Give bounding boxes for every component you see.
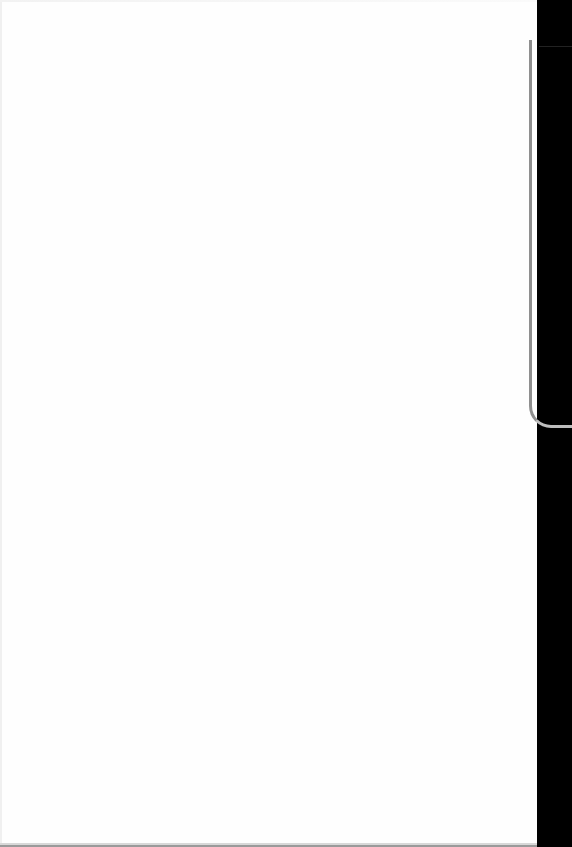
paper-top-edge	[0, 0, 537, 2]
blank-paper-sheet	[0, 0, 537, 845]
paper-curled-edge	[529, 40, 572, 428]
